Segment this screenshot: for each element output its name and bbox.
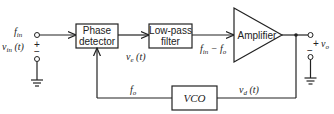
output-minus-sign: −: [307, 45, 313, 56]
input-ground-icon: [31, 80, 43, 86]
vco-label: VCO: [184, 92, 206, 104]
ve-label: ve (t): [126, 51, 146, 64]
amplifier-label: Amplifier: [238, 30, 278, 41]
output-plus-sign: +: [313, 38, 319, 49]
input-terminal-top: [35, 33, 40, 38]
fin-label: fin: [14, 26, 23, 39]
lowpass-line2: filter: [161, 36, 181, 47]
vin-label: vin (t): [2, 41, 25, 54]
phase-detector-block: Phase detector: [76, 24, 118, 48]
fo-label: fo: [130, 84, 137, 97]
lowpass-line1: Low-pass: [149, 25, 192, 36]
phase-detector-line1: Phase: [83, 25, 112, 36]
output-terminal-top: [308, 33, 313, 38]
lowpass-filter-block: Low-pass filter: [149, 24, 192, 48]
input-minus-sign: −: [34, 46, 40, 57]
amplifier-block: Amplifier: [234, 8, 282, 62]
vd-label: vd (t): [239, 84, 260, 97]
output-ground-icon: [305, 78, 317, 84]
phase-detector-line2: detector: [79, 36, 116, 47]
vo-label: vo: [321, 38, 329, 51]
fdiff-label: fin − fo: [200, 43, 227, 56]
input-terminal-bottom: [35, 57, 40, 62]
vco-block: VCO: [172, 86, 217, 110]
pll-diagram: Phase detector Low-pass filter Amplifier…: [0, 0, 334, 114]
